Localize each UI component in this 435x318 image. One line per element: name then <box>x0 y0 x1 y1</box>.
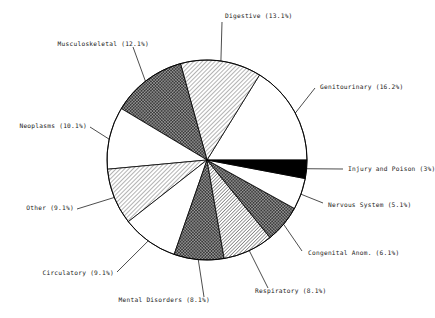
slice-label-injury-and-poison: Injury and Poison (3%) <box>348 164 435 173</box>
leader-line-nervous-system <box>301 194 323 203</box>
leader-line-respiratory <box>249 251 268 288</box>
slice-label-other: Other (9.1%) <box>26 203 74 212</box>
slice-label-circulatory: Circulatory (9.1%) <box>42 268 114 277</box>
slice-label-neoplasms: Neoplasms (10.1%) <box>19 121 87 130</box>
leader-line-musculoskeletal <box>133 47 145 81</box>
leader-line-genitourinary <box>295 88 315 113</box>
slice-label-musculoskeletal: Musculoskeletal (12.1%) <box>58 39 149 48</box>
slice-label-genitourinary: Genitourinary (16.2%) <box>320 82 403 91</box>
pie-slices-group <box>107 60 307 260</box>
leader-line-congenital-anom <box>284 224 302 251</box>
leader-line-digestive <box>221 22 222 61</box>
slice-label-congenital-anom: Congenital Anom. (6.1%) <box>308 248 399 257</box>
slice-label-nervous-system: Nervous System (5.1%) <box>328 200 411 209</box>
leader-line-neoplasms <box>90 127 109 139</box>
slice-label-digestive: Digestive (13.1%) <box>225 11 293 20</box>
leader-line-mental-disorders <box>198 260 204 297</box>
leader-line-other <box>77 197 114 209</box>
leader-line-circulatory <box>117 241 148 272</box>
slice-label-respiratory: Respiratory (8.1%) <box>255 286 327 295</box>
slice-label-mental-disorders: Mental Disorders (8.1%) <box>119 295 210 304</box>
